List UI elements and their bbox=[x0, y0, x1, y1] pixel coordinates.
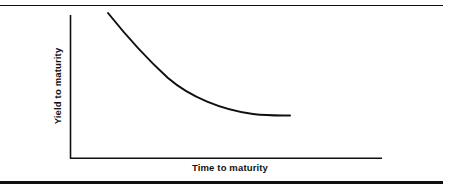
x-axis-label: Time to maturity bbox=[155, 162, 305, 173]
y-axis-label: Yield to maturity bbox=[52, 11, 66, 161]
figure-container: Yield to maturity Time to maturity bbox=[0, 0, 455, 190]
bottom-divider-rule bbox=[0, 181, 443, 184]
yield-curve-line bbox=[108, 13, 290, 115]
